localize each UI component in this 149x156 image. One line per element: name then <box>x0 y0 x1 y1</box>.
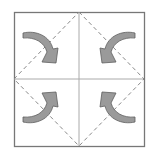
fold-diagram <box>0 0 149 156</box>
